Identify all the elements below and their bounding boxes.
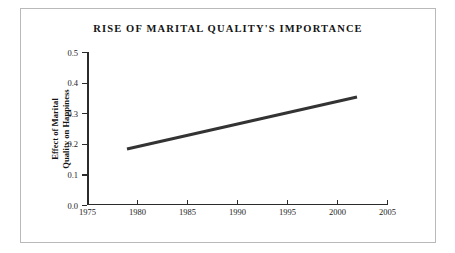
y-axis-title-line-1: Effect of Marital [50, 54, 61, 204]
x-tick-label: 2005 [379, 207, 396, 217]
x-tick-label: 2000 [329, 207, 346, 217]
y-tick-label: 0.0 [67, 201, 78, 211]
x-tick-label: 1995 [279, 207, 296, 217]
y-tick-label: 0.5 [67, 48, 78, 58]
chart-title: RISE OF MARITAL QUALITY'S IMPORTANCE [21, 23, 435, 34]
trend-line [127, 97, 357, 149]
y-axis-title-line-2: Quality on Happiness [60, 54, 71, 204]
x-tick-label: 1980 [129, 207, 146, 217]
trend-line-series [87, 52, 387, 205]
x-tick-label: 1985 [179, 207, 196, 217]
y-tick-label: 0.4 [67, 78, 78, 88]
chart-figure-frame: RISE OF MARITAL QUALITY'S IMPORTANCE Eff… [20, 8, 436, 243]
y-tick-label: 0.3 [67, 109, 78, 119]
x-tick-label: 1975 [79, 207, 96, 217]
y-tick-label: 0.2 [67, 139, 78, 149]
y-axis-title: Effect of Marital Quality on Happiness [50, 54, 71, 204]
plot-area: Effect of Marital Quality on Happiness 0… [87, 52, 387, 205]
y-tick: 0.0 [82, 205, 87, 206]
x-tick: 2005 [387, 200, 388, 205]
y-tick-label: 0.1 [67, 170, 78, 180]
x-tick-label: 1990 [229, 207, 246, 217]
